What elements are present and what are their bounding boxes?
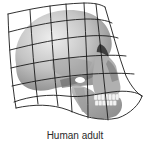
grid-column-line xyxy=(8,14,16,108)
ear-opening xyxy=(75,77,85,83)
skull-illustration xyxy=(0,0,150,145)
figure-caption: Human adult xyxy=(0,130,150,142)
skull-grid-figure: Human adult xyxy=(0,0,150,145)
